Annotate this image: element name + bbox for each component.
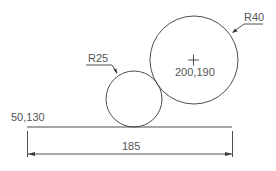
r40-leader bbox=[232, 24, 263, 33]
drawing-canvas: 50,130 R25 R40 200,190 185 bbox=[0, 0, 276, 171]
baseline-start-label: 50,130 bbox=[11, 111, 45, 123]
arrowhead-icon bbox=[114, 69, 118, 75]
dimension-line bbox=[28, 152, 232, 156]
center-mark-icon bbox=[188, 55, 199, 66]
arrowhead-left-icon bbox=[28, 152, 35, 156]
small-radius-label: R25 bbox=[88, 52, 108, 64]
small-circle bbox=[106, 71, 162, 127]
large-radius-label: R40 bbox=[244, 11, 264, 23]
arrowhead-right-icon bbox=[225, 152, 232, 156]
dimension-label: 185 bbox=[122, 140, 140, 152]
r25-leader bbox=[86, 65, 117, 74]
large-center-label: 200,190 bbox=[175, 66, 215, 78]
